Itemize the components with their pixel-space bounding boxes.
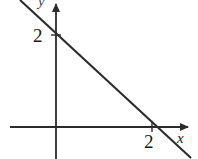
coordinate-plane-figure: y x 2 2	[0, 0, 198, 159]
x-axis-tick-label-2: 2	[144, 132, 154, 151]
line-x-plus-y-equals-2	[20, 0, 191, 158]
y-axis-tick-label-2: 2	[33, 26, 43, 45]
y-axis-label: y	[38, 0, 45, 9]
graph-canvas	[0, 0, 198, 159]
x-axis-label: x	[177, 131, 184, 146]
data-line-series	[20, 0, 191, 158]
